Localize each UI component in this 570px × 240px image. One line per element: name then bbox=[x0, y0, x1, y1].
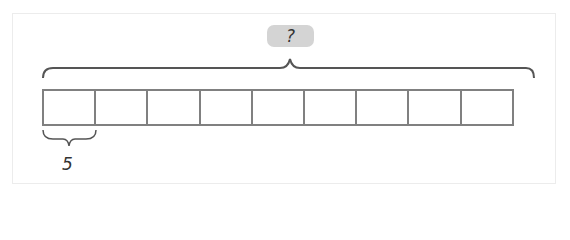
tape-box bbox=[94, 89, 149, 126]
unit-brace bbox=[43, 130, 96, 146]
tape-box bbox=[199, 89, 254, 126]
tape-box bbox=[251, 89, 306, 126]
unit-value-label: 5 bbox=[62, 154, 73, 174]
tape-box bbox=[407, 89, 462, 126]
tape-box bbox=[303, 89, 358, 126]
tape-row bbox=[42, 89, 514, 126]
tape-box bbox=[42, 89, 97, 126]
top-brace bbox=[43, 59, 534, 78]
tape-box bbox=[146, 89, 201, 126]
tape-box bbox=[355, 89, 410, 126]
tape-box bbox=[460, 89, 515, 126]
